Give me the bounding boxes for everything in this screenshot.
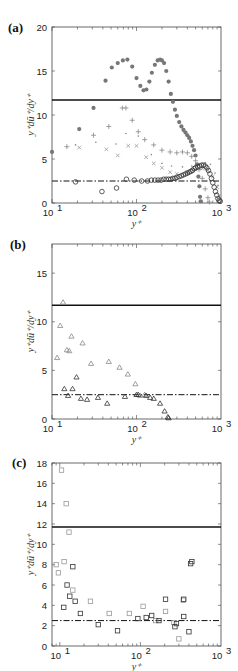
x-tick-label: 10 (51, 650, 62, 661)
y-tick-label: 18 (36, 458, 47, 469)
svg-text:1: 1 (65, 645, 70, 656)
y-tick-label: 10 (36, 539, 47, 550)
plot-c: 101102103024681012141618y⁺y⁺dū⁺/dy⁺ (0, 445, 238, 671)
x-axis-label: y⁺ (131, 661, 142, 671)
series-squares-light (54, 468, 186, 641)
panel-a: (a) 10110210305101520y⁺y⁺dū⁺/dy⁺ (0, 0, 238, 225)
svg-text:3: 3 (226, 418, 231, 429)
y-tick-label: 8 (42, 559, 47, 570)
x-axis-label: y⁺ (131, 434, 142, 445)
y-tick-label: 4 (42, 600, 47, 611)
series-triangles-dark (62, 375, 171, 420)
y-tick-label: 5 (42, 365, 47, 376)
y-tick-label: 15 (36, 66, 47, 77)
y-axis-label: y⁺dū⁺/dy⁺ (25, 533, 36, 577)
svg-text:2: 2 (142, 202, 147, 213)
axes-frame (52, 27, 221, 203)
svg-text:3: 3 (226, 645, 231, 656)
y-tick-label: 0 (42, 198, 47, 209)
y-tick-label: 20 (36, 22, 47, 33)
y-tick-label: 6 (42, 580, 47, 591)
x-tick-label: 10 (212, 650, 223, 661)
svg-text:2: 2 (145, 645, 150, 656)
plot-a: 10110210305101520y⁺y⁺dū⁺/dy⁺ (0, 0, 238, 225)
y-tick-label: 14 (36, 498, 47, 509)
svg-text:1: 1 (57, 418, 62, 429)
y-tick-label: 0 (42, 414, 47, 425)
panel-c: (c) 101102103024681012141618y⁺y⁺dū⁺/dy⁺ (0, 445, 238, 671)
svg-text:2: 2 (142, 418, 147, 429)
panel-b: (b) 101102103051015y⁺y⁺dū⁺/dy⁺ (0, 225, 238, 445)
x-tick-label: 10 (43, 207, 54, 218)
y-tick-label: 10 (36, 316, 47, 327)
axes-frame (52, 463, 221, 646)
x-tick-label: 10 (43, 423, 54, 434)
y-tick-label: 0 (42, 641, 47, 652)
y-tick-label: 15 (36, 268, 47, 279)
y-axis-label: y⁺dū⁺/dy⁺ (25, 310, 36, 354)
y-tick-label: 10 (36, 110, 47, 121)
x-tick-label: 10 (127, 423, 138, 434)
y-tick-label: 12 (36, 519, 47, 530)
series-triangles-light (55, 300, 148, 398)
y-tick-label: 5 (42, 154, 47, 165)
y-tick-label: 16 (36, 478, 47, 489)
svg-text:3: 3 (226, 202, 231, 213)
plot-b: 101102103051015y⁺y⁺dū⁺/dy⁺ (0, 225, 238, 445)
y-tick-label: 2 (42, 620, 47, 631)
svg-text:1: 1 (57, 202, 62, 213)
series-squares-dark (62, 559, 194, 634)
x-tick-label: 10 (212, 207, 223, 218)
x-tick-label: 10 (131, 650, 142, 661)
x-tick-label: 10 (127, 207, 138, 218)
x-tick-label: 10 (212, 423, 223, 434)
series-plus (64, 105, 212, 204)
y-axis-label: y⁺dū⁺/dy⁺ (25, 93, 36, 137)
